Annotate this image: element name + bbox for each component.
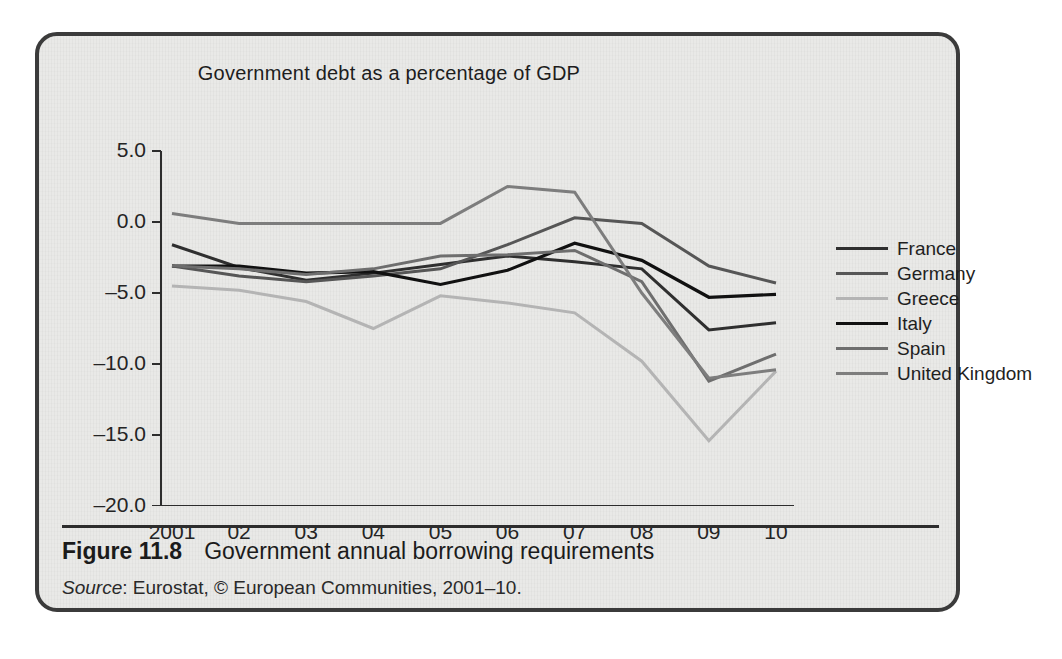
legend-label: Italy	[897, 314, 932, 333]
legend-label: France	[897, 239, 956, 258]
legend-label: Spain	[897, 339, 946, 358]
caption-divider	[62, 525, 939, 528]
figure-number: Figure 11.8	[62, 538, 182, 564]
figure-caption-text: Government annual borrowing requirements	[204, 538, 654, 564]
legend-item-spain: Spain	[836, 336, 1032, 361]
source-text: : Eurostat, © European Communities, 2001…	[122, 577, 522, 598]
y-axis-tick-label: –5.0	[54, 280, 146, 304]
line-chart-svg	[39, 36, 964, 506]
legend-item-france: France	[836, 236, 1032, 261]
y-axis-tick-label: 0.0	[54, 209, 146, 233]
legend-color-swatch	[836, 322, 888, 325]
y-axis-tick-label: –20.0	[54, 493, 146, 517]
legend-color-swatch	[836, 297, 888, 300]
legend-item-greece: Greece	[836, 286, 1032, 311]
y-axis-tick-label: –10.0	[54, 351, 146, 375]
legend-item-united-kingdom: United Kingdom	[836, 361, 1032, 386]
y-axis-tick-label: –15.0	[54, 422, 146, 446]
legend-label: Germany	[897, 264, 975, 283]
chart-legend: FranceGermanyGreeceItalySpainUnited King…	[836, 236, 1032, 386]
legend-color-swatch	[836, 272, 888, 275]
legend-color-swatch	[836, 347, 888, 350]
figure-page: Government debt as a percentage of GDP 5…	[0, 0, 1062, 659]
figure-panel: Government debt as a percentage of GDP 5…	[35, 32, 960, 612]
legend-color-swatch	[836, 372, 888, 375]
legend-label: United Kingdom	[897, 364, 1032, 383]
y-axis-tick-label: 5.0	[54, 138, 146, 162]
legend-color-swatch	[836, 247, 888, 250]
figure-source: Source: Eurostat, © European Communities…	[62, 577, 932, 599]
legend-label: Greece	[897, 289, 959, 308]
series-line-united-kingdom	[172, 187, 776, 379]
series-line-spain	[172, 250, 776, 381]
plot-area: 5.00.0–5.0–10.0–15.0–20.0 20010203040506…	[39, 36, 964, 506]
figure-caption: Figure 11.8Government annual borrowing r…	[62, 538, 932, 565]
source-label: Source	[62, 577, 122, 598]
legend-item-germany: Germany	[836, 261, 1032, 286]
legend-item-italy: Italy	[836, 311, 1032, 336]
